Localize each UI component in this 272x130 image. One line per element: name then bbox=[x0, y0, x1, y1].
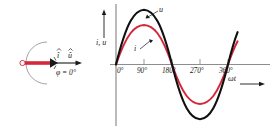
i-label-leader bbox=[140, 41, 150, 49]
x-axis-arrow-head bbox=[259, 82, 265, 86]
y-axis-label: i, u bbox=[96, 38, 106, 47]
y-axis-arrow-head bbox=[102, 10, 106, 16]
current-phasor-label: î bbox=[57, 51, 59, 60]
phase-angle-label: φ = 0° bbox=[56, 68, 76, 77]
x-tick-label-360: 360° bbox=[219, 66, 233, 75]
x-tick-label-90: 90° bbox=[137, 66, 147, 75]
voltage-phasor-head bbox=[76, 60, 83, 65]
x-tick-label-270: 270° bbox=[190, 66, 204, 75]
x-tick-label-180: 180° bbox=[162, 66, 176, 75]
phasor-diagram bbox=[20, 42, 82, 84]
phasor-tick-upper bbox=[54, 57, 56, 61]
x-tick-label-0: 0° bbox=[117, 66, 123, 75]
x-axis-label: ωt bbox=[228, 74, 236, 83]
curve-label-i: i bbox=[134, 44, 136, 53]
voltage-phasor-label: û bbox=[68, 51, 72, 60]
figure-svg bbox=[0, 0, 272, 130]
figure-root: î û φ = 0° i, u ωt 0° 90° 180° 270° 360°… bbox=[0, 0, 272, 130]
curve-label-u: u bbox=[159, 5, 163, 14]
origin-circle bbox=[20, 60, 25, 65]
waveform-chart bbox=[102, 4, 270, 126]
